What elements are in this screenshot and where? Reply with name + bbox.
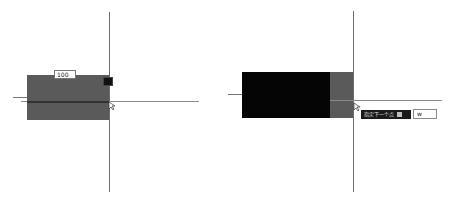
extension-tick <box>13 97 27 98</box>
right-drawing-canvas[interactable]: 指定下一个点 w <box>227 0 454 204</box>
black-filled-rectangle <box>242 72 330 118</box>
horizontal-crosshair <box>330 100 442 101</box>
command-prompt-tooltip: 指定下一个点 <box>361 110 411 119</box>
arrow-cursor-icon <box>353 102 361 112</box>
dimension-value: 100 <box>57 71 68 78</box>
arrow-cursor-icon <box>108 101 116 111</box>
command-input[interactable]: w <box>413 109 437 119</box>
dimension-input[interactable]: 100 <box>54 70 76 79</box>
command-value: w <box>417 110 422 117</box>
prompt-label: 指定下一个点 <box>364 110 394 119</box>
options-icon[interactable] <box>397 112 402 117</box>
snap-marker-icon <box>103 77 113 86</box>
extension-line <box>228 94 242 95</box>
left-drawing-canvas[interactable]: 100 <box>0 0 227 204</box>
gray-rectangle <box>330 72 353 118</box>
dimension-line <box>27 101 109 103</box>
gray-rectangle <box>27 75 109 120</box>
